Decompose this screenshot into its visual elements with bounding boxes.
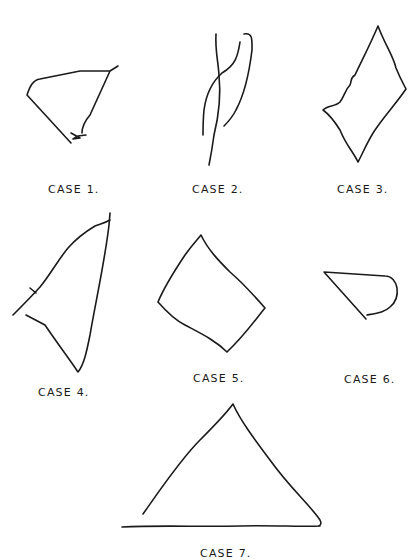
case-5-drawing <box>158 235 265 352</box>
case-1-label: CASE 1. <box>48 183 100 196</box>
case-4-label: CASE 4. <box>38 386 90 399</box>
case-2-label: CASE 2. <box>192 183 244 196</box>
case-5-label: CASE 5. <box>193 372 245 385</box>
case-4-drawing <box>13 213 110 372</box>
case-1-drawing <box>27 66 118 143</box>
case-6-drawing <box>324 272 397 319</box>
case-2-drawing <box>203 34 252 165</box>
case-3-label: CASE 3. <box>337 183 389 196</box>
case-3-drawing <box>323 26 406 162</box>
case-6-label: CASE 6. <box>344 373 396 386</box>
case-7-label: CASE 7. <box>200 547 252 560</box>
case-7-drawing <box>122 404 321 527</box>
